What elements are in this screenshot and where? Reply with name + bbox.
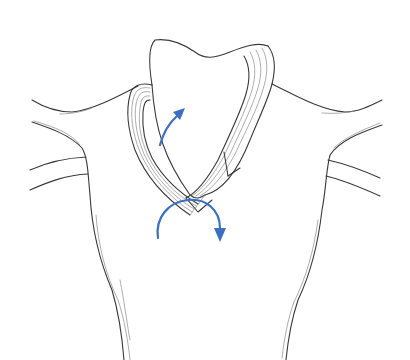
scarf-diagram (0, 0, 410, 360)
fold-up-arrow (160, 108, 185, 145)
scarf (128, 40, 274, 215)
wrap-around-arrow (158, 200, 226, 242)
torso-outline (30, 84, 382, 360)
scarf-illustration (0, 0, 410, 360)
